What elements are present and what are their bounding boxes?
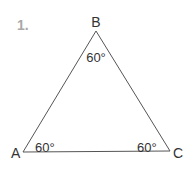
- problem-number: 1.: [17, 17, 29, 33]
- triangle-diagram: 1. B A C 60° 60° 60°: [0, 0, 186, 170]
- vertex-label-c: C: [173, 145, 183, 161]
- angle-a-label: 60°: [35, 140, 55, 155]
- angle-c-label: 60°: [137, 140, 157, 155]
- vertex-label-a: A: [11, 145, 21, 161]
- angle-b-label: 60°: [86, 50, 106, 65]
- vertex-label-b: B: [91, 14, 100, 30]
